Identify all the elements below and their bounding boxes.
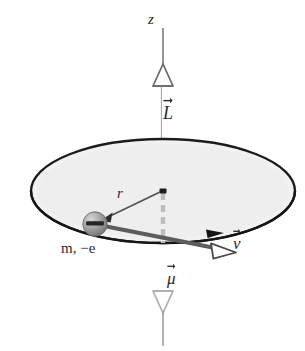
magnetic-moment-arrowhead-icon [153, 291, 173, 313]
origin-point [160, 189, 167, 194]
magnetic-moment-label: μ [167, 270, 176, 287]
z-axis-arrowhead-icon [153, 64, 173, 86]
z-axis-label: z [148, 12, 154, 27]
angular-momentum-label: L [163, 104, 173, 122]
particle-label: m, −e [61, 241, 95, 256]
magnetic-moment-symbol: μ [167, 269, 176, 288]
velocity-label: v [233, 235, 241, 252]
physics-diagram-figure: z L r m, −e v [0, 0, 305, 351]
velocity-symbol: v [233, 234, 241, 253]
electron-negative-sign-icon [86, 221, 104, 225]
diagram-canvas [0, 0, 305, 351]
radius-label: r [117, 186, 123, 201]
angular-momentum-symbol: L [163, 103, 173, 123]
